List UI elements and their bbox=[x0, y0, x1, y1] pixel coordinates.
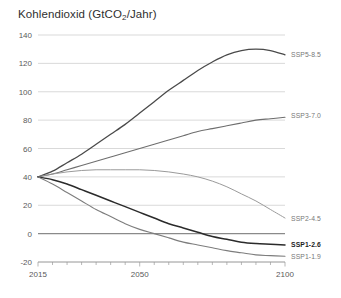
series-line-ssp3-7.0 bbox=[38, 117, 285, 177]
x-axis-tick-label: 2015 bbox=[29, 270, 47, 279]
x-axis-tick-labels: 201520502100 bbox=[29, 270, 294, 279]
series-legend-label-ssp2-4.5: SSP2-4.5 bbox=[291, 215, 321, 222]
y-axis-tick-label: 140 bbox=[19, 31, 33, 40]
y-axis-tick-label: 100 bbox=[19, 88, 33, 97]
gridlines-group bbox=[38, 35, 285, 262]
y-axis-tick-label: 120 bbox=[19, 59, 33, 68]
y-axis-tick-label: 80 bbox=[23, 116, 32, 125]
series-legend-label-ssp5-8.5: SSP5-8.5 bbox=[291, 51, 321, 58]
series-line-ssp5-8.5 bbox=[38, 49, 285, 177]
x-axis-tick-label: 2050 bbox=[131, 270, 149, 279]
series-line-ssp1-1.9 bbox=[38, 177, 285, 256]
series-legend-label-ssp3-7.0: SSP3-7.0 bbox=[291, 112, 321, 119]
series-legend-label-ssp1-1.9: SSP1-1.9 bbox=[291, 253, 321, 260]
series-inline-legend: SSP5-8.5SSP3-7.0SSP2-4.5SSP1-2.6SSP1-1.9 bbox=[291, 51, 321, 259]
line-chart-plot: -20020406080100120140 201520502100 SSP5-… bbox=[0, 0, 341, 298]
x-axis-group bbox=[38, 262, 285, 267]
y-axis-tick-label: 20 bbox=[23, 201, 32, 210]
y-axis-tick-label: 60 bbox=[23, 145, 32, 154]
y-axis-tick-label: 40 bbox=[23, 173, 32, 182]
y-axis-tick-label: -20 bbox=[20, 258, 32, 267]
series-line-ssp1-2.6 bbox=[38, 177, 285, 245]
series-legend-label-ssp1-2.6: SSP1-2.6 bbox=[291, 241, 321, 248]
series-curves-group bbox=[38, 49, 285, 256]
y-axis-tick-labels: -20020406080100120140 bbox=[19, 31, 33, 267]
x-axis-tick-label: 2100 bbox=[276, 270, 294, 279]
y-axis-tick-label: 0 bbox=[28, 230, 33, 239]
chart-container: Kohlendioxid (GtCO2/Jahr) -2002040608010… bbox=[0, 0, 341, 298]
